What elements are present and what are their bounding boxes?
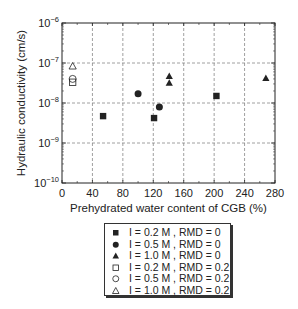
svg-text:0: 0 [59,187,65,199]
svg-text:280: 280 [266,187,284,199]
filled-triangle-point [166,73,173,80]
svg-text:10−9: 10−9 [38,135,59,149]
legend-item: I = 0.2 M , RMD = 0 [105,227,230,239]
legend-item: I = 1.0 M , RMD = 0.2 [105,285,230,297]
svg-text:160: 160 [175,187,193,199]
legend-item: I = 1.0 M , RMD = 0 [105,250,230,262]
filled-triangle-point [166,79,173,86]
open-triangle-icon [111,285,121,297]
legend-item: I = 0.5 M , RMD = 0.2 [105,273,230,285]
svg-text:40: 40 [86,187,98,199]
open-square-icon [111,262,121,274]
filled-triangle-point [262,75,269,82]
svg-text:80: 80 [117,187,129,199]
svg-text:240: 240 [235,187,253,199]
svg-text:10−10: 10−10 [34,175,59,189]
legend: I = 0.2 M , RMD = 0 I = 0.5 M , RMD = 0 … [104,223,231,296]
open-triangle-point [69,63,76,70]
x-axis-title: Prehydrated water content of CGB (%) [70,202,267,214]
grid-lines [62,23,275,183]
filled-circle-icon [111,239,121,251]
filled-circle-point [135,90,142,97]
svg-text:10−6: 10−6 [38,15,59,29]
filled-square-icon [111,227,121,239]
y-axis: 10−1010−910−810−710−6 [34,15,275,189]
y-axis-title: Hydraulic conductivity (cm/s) [15,30,27,177]
filled-square-point [213,93,219,99]
svg-text:10−7: 10−7 [38,55,59,69]
svg-text:120: 120 [144,187,162,199]
filled-square-point [100,113,106,119]
open-circle-icon [111,273,121,285]
data-points [69,63,269,122]
svg-text:10−8: 10−8 [38,95,59,109]
svg-text:200: 200 [205,187,223,199]
filled-triangle-icon [111,250,121,262]
filled-square-point [151,115,157,121]
filled-circle-point [156,104,163,111]
